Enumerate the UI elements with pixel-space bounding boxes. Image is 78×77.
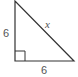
bottom-leg-label: 6 [41,64,47,76]
right-triangle-diagram: 6 x 6 [0,0,78,77]
triangle-shape [15,1,74,61]
right-angle-marker [15,51,25,61]
left-leg-label: 6 [3,27,9,39]
hypotenuse-label: x [44,18,50,30]
